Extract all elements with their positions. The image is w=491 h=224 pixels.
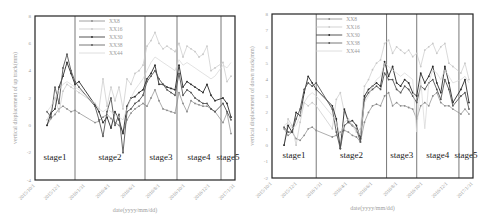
down-data-point <box>380 105 382 107</box>
down-data-point <box>460 89 462 91</box>
down-data-point <box>424 89 426 91</box>
down-data-point <box>404 85 406 87</box>
down-data-point <box>331 105 333 107</box>
down-data-point <box>468 79 470 81</box>
down-data-point <box>364 121 366 123</box>
up-data-point <box>78 86 80 88</box>
down-xtick-label: 2016/10/1 <box>406 181 424 199</box>
up-legend-label-xx38: XX38 <box>109 42 123 48</box>
down-data-point <box>400 92 402 94</box>
up-data-point <box>150 73 152 75</box>
up-data-point <box>58 86 60 88</box>
up-data-point <box>210 108 212 110</box>
down-y-axis-label: vertical displacement of down track(mm) <box>249 46 256 145</box>
up-data-point <box>102 78 104 80</box>
down-data-point <box>388 92 390 94</box>
down-data-point <box>364 95 366 97</box>
up-data-point <box>182 86 184 88</box>
down-data-point <box>464 92 466 94</box>
down-data-point <box>364 85 366 87</box>
down-data-point <box>287 125 289 127</box>
down-data-point <box>343 108 345 110</box>
up-data-point <box>158 42 160 44</box>
down-data-point <box>376 62 378 64</box>
up-data-point <box>146 78 148 80</box>
up-data-point <box>46 119 48 121</box>
up-data-point <box>154 70 156 72</box>
up-data-point <box>154 89 156 91</box>
up-data-point <box>62 90 64 92</box>
down-data-point <box>460 113 462 115</box>
up-ytick-label: 0 <box>29 123 32 128</box>
down-data-point <box>412 95 414 97</box>
down-data-point <box>412 108 414 110</box>
down-data-point <box>408 89 410 91</box>
down-data-point <box>440 102 442 104</box>
down-data-point <box>408 49 410 51</box>
down-data-point <box>307 128 309 130</box>
down-data-point <box>440 46 442 48</box>
down-stage-label-5: stage5 <box>454 150 477 160</box>
up-data-point <box>70 70 72 72</box>
up-data-point <box>174 51 176 53</box>
down-data-point <box>460 72 462 74</box>
down-data-point <box>299 108 301 110</box>
up-track-chart: -4-202468vertical displacement of up tra… <box>0 0 245 224</box>
down-data-point <box>400 105 402 107</box>
down-data-point <box>452 108 454 110</box>
up-data-point <box>138 105 140 107</box>
up-data-point <box>154 64 156 66</box>
down-data-point <box>396 102 398 104</box>
up-data-point <box>94 105 96 107</box>
up-data-point <box>222 97 224 99</box>
up-data-point <box>166 45 168 47</box>
up-data-point <box>162 108 164 110</box>
up-data-point <box>178 92 180 94</box>
down-data-point <box>468 108 470 110</box>
up-x-axis-label: date(yyyy/mm/dd) <box>113 207 158 214</box>
down-ytick-label: -1 <box>264 159 269 164</box>
up-data-point <box>230 119 232 121</box>
down-xtick-label: 2015/10/1 <box>255 181 273 199</box>
up-data-point <box>74 109 76 111</box>
up-data-point <box>114 124 116 126</box>
down-data-point <box>372 89 374 91</box>
up-data-point <box>54 108 56 110</box>
down-data-point <box>384 43 386 45</box>
up-data-point <box>158 78 160 80</box>
down-data-point <box>283 144 285 146</box>
up-data-point <box>158 100 160 102</box>
down-data-point <box>424 82 426 84</box>
up-data-point <box>114 100 116 102</box>
down-data-point <box>444 105 446 107</box>
down-legend-label-xx44: XX44 <box>346 48 360 54</box>
up-data-point <box>146 105 148 107</box>
up-stage-label-4: stage4 <box>188 152 211 162</box>
up-data-point <box>206 83 208 85</box>
up-data-point <box>74 89 76 91</box>
up-data-point <box>226 81 228 83</box>
up-xtick-label: 2017/1/31 <box>218 183 236 201</box>
up-data-point <box>150 40 152 42</box>
down-data-point <box>295 144 297 146</box>
up-data-point <box>158 83 160 85</box>
down-data-point <box>416 95 418 97</box>
up-data-point <box>186 45 188 47</box>
up-data-point <box>182 94 184 96</box>
down-ytick-label: -2 <box>264 176 269 181</box>
up-data-point <box>142 89 144 91</box>
down-legend-label-xx16: XX16 <box>346 24 360 30</box>
up-data-point <box>102 116 104 118</box>
down-data-point <box>404 52 406 54</box>
up-data-point <box>66 62 68 64</box>
up-data-point <box>214 100 216 102</box>
up-data-point <box>182 103 184 105</box>
down-data-point <box>335 131 337 133</box>
up-data-point <box>202 105 204 107</box>
up-data-point <box>198 89 200 91</box>
up-data-point <box>114 111 116 113</box>
up-data-point <box>122 108 124 110</box>
down-data-point <box>452 105 454 107</box>
down-xtick-label: 2016/1/31 <box>305 181 323 199</box>
down-legend-label-xx38: XX38 <box>346 40 360 46</box>
